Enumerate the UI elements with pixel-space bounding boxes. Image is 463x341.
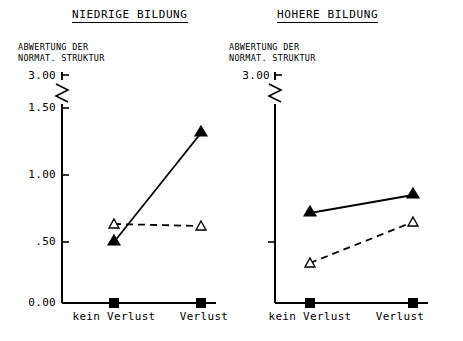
datapoint-filled-triangle-low-verlust: [195, 126, 207, 136]
xtick-marker-kein-verlust-high: [305, 298, 315, 308]
axis-break-marker-high: [269, 84, 281, 102]
panel-hohere-bildung: HOHERE BILDUNG ABWERTUNG DER NORMAT. STR…: [228, 0, 463, 341]
xtick-marker-verlust-low: [196, 298, 206, 308]
axis-break-marker-low: [56, 84, 68, 102]
panel-niedrige-bildung: NIEDRIGE BILDUNG ABWERTUNG DER NORMAT. S…: [0, 0, 240, 341]
datapoint-open-triangle-low-verlust: [196, 221, 206, 230]
datapoint-open-triangle-high-verlust: [408, 217, 418, 226]
plot-area-low: [0, 0, 240, 341]
figure-two-panel-line-charts: NIEDRIGE BILDUNG ABWERTUNG DER NORMAT. S…: [0, 0, 463, 341]
series-line-solid-high: [310, 195, 413, 213]
datapoint-filled-triangle-high-verlust: [407, 188, 419, 198]
xtick-marker-kein-verlust-low: [109, 298, 119, 308]
series-line-dashed-high: [310, 222, 413, 263]
plot-area-high: [228, 0, 463, 341]
xtick-marker-verlust-high: [408, 298, 418, 308]
datapoint-filled-triangle-high-kein-verlust: [304, 206, 316, 216]
